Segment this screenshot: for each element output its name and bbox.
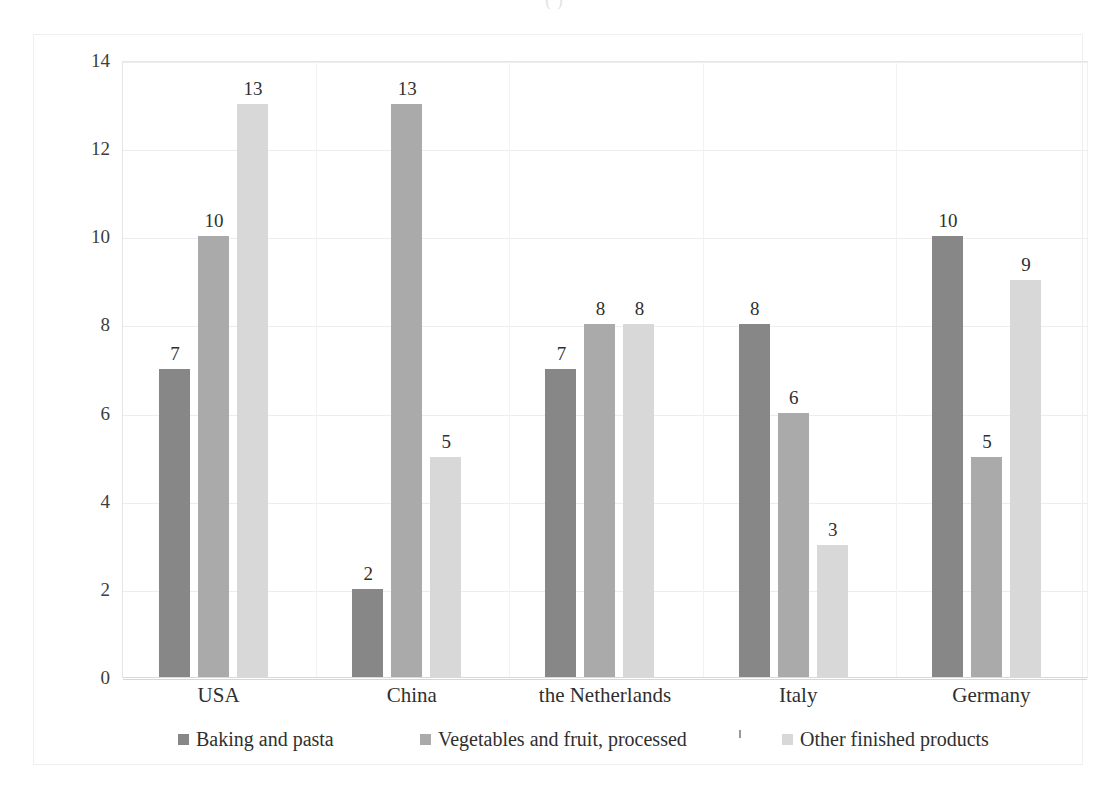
y-axis: 14121086420 [34, 61, 110, 678]
bar-group-usa: 71013 [123, 62, 316, 677]
bar[interactable] [584, 324, 615, 677]
bar[interactable] [623, 324, 654, 677]
bar[interactable] [237, 104, 268, 677]
bar-value-label: 6 [764, 388, 824, 407]
bar-value-label: 7 [145, 344, 205, 363]
bar-value-label: 7 [531, 344, 591, 363]
bar[interactable] [778, 413, 809, 677]
bar[interactable] [391, 104, 422, 677]
x-axis-tick-label: the Netherlands [508, 683, 701, 707]
x-axis-tick-label: Italy [702, 683, 895, 707]
bar-value-label: 5 [416, 432, 476, 451]
bar-value-label: 10 [918, 211, 978, 230]
bar-group-china: 2135 [316, 62, 509, 677]
y-axis-tick-label: 6 [40, 404, 110, 423]
x-axis: USAChinathe NetherlandsItalyGermany [122, 683, 1088, 717]
bar[interactable] [817, 545, 848, 677]
bar-value-label: 13 [377, 79, 437, 98]
bar-group-italy: 863 [703, 62, 896, 677]
legend-label: Other finished products [800, 728, 989, 750]
bar-value-label: 3 [803, 520, 863, 539]
top-caption: ( ) [0, 0, 1109, 13]
x-axis-tick-label: USA [122, 683, 315, 707]
y-axis-tick-label: 2 [40, 580, 110, 599]
y-axis-tick-label: 4 [40, 492, 110, 511]
bar[interactable] [739, 324, 770, 677]
bar[interactable] [430, 457, 461, 677]
x-axis-tick-label: China [315, 683, 508, 707]
y-axis-tick-label: 10 [40, 227, 110, 246]
bar-value-label: 10 [184, 211, 244, 230]
bar[interactable] [545, 369, 576, 678]
legend-swatch-icon [178, 734, 189, 745]
legend-label: Baking and pasta [196, 728, 334, 750]
bar[interactable] [198, 236, 229, 677]
bar[interactable] [971, 457, 1002, 677]
bar[interactable] [932, 236, 963, 677]
y-axis-tick-label: 8 [40, 315, 110, 334]
x-axis-tick-label: Germany [895, 683, 1088, 707]
legend-stray-mark [739, 730, 741, 738]
bar[interactable] [1010, 280, 1041, 677]
bar-value-label: 5 [957, 432, 1017, 451]
y-axis-tick-label: 0 [40, 668, 110, 687]
legend-swatch-icon [782, 734, 793, 745]
bar-value-label: 8 [725, 299, 785, 318]
bar-value-label: 8 [609, 299, 669, 318]
bar-group-germany: 1059 [896, 62, 1089, 677]
bar[interactable] [352, 589, 383, 677]
bar-value-label: 2 [338, 564, 398, 583]
y-axis-tick-label: 12 [40, 139, 110, 158]
y-axis-tick-label: 14 [40, 51, 110, 70]
legend-swatch-icon [420, 734, 431, 745]
chart-frame: 14121086420 7101321357888631059 USAChina… [33, 34, 1083, 765]
bar-value-label: 9 [996, 255, 1056, 274]
bar-group-the-netherlands: 788 [509, 62, 702, 677]
plot-area: 7101321357888631059 [122, 61, 1088, 678]
legend-item[interactable]: Vegetables and fruit, processed [420, 728, 687, 750]
bar-value-label: 13 [223, 79, 283, 98]
bar[interactable] [159, 369, 190, 678]
legend-label: Vegetables and fruit, processed [438, 728, 687, 750]
gridline-y-0 [123, 679, 1087, 680]
legend-item[interactable]: Other finished products [782, 728, 989, 750]
chart-legend: Baking and pastaVegetables and fruit, pr… [122, 728, 1088, 760]
legend-item[interactable]: Baking and pasta [178, 728, 334, 750]
